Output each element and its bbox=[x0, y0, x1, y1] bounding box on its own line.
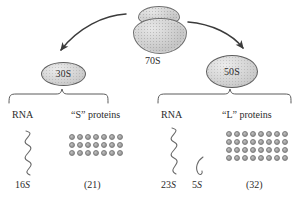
arrow-to-50s bbox=[188, 22, 243, 48]
protein-dot bbox=[274, 155, 280, 161]
protein-dot bbox=[274, 147, 280, 153]
label-70s: 70S bbox=[145, 56, 161, 66]
protein-dot bbox=[77, 134, 83, 140]
protein-dot bbox=[258, 131, 264, 137]
heading-s-proteins: “S” proteins bbox=[71, 110, 120, 120]
protein-dot bbox=[250, 139, 256, 145]
protein-dot bbox=[85, 134, 91, 140]
ribosome-large-lobe bbox=[133, 18, 187, 54]
protein-dot bbox=[93, 134, 99, 140]
label-5s: 5S bbox=[192, 180, 202, 190]
protein-dot bbox=[226, 131, 232, 137]
protein-dot bbox=[117, 134, 123, 140]
protein-dot bbox=[250, 147, 256, 153]
protein-dot bbox=[69, 134, 75, 140]
protein-dot bbox=[274, 131, 280, 137]
protein-dot bbox=[101, 134, 107, 140]
protein-dot bbox=[226, 139, 232, 145]
rna-5s-icon bbox=[197, 157, 203, 174]
protein-dot bbox=[109, 150, 115, 156]
protein-dot bbox=[266, 139, 272, 145]
protein-grid-l bbox=[226, 131, 288, 161]
protein-dot bbox=[226, 147, 232, 153]
arrow-to-30s bbox=[61, 14, 126, 50]
protein-dot bbox=[93, 142, 99, 148]
ribosome-composition-figure: 70S 30S 50S RNA “S” proteins RNA “L” pro… bbox=[0, 0, 298, 200]
protein-dot bbox=[250, 131, 256, 137]
ribosome-70s-icon bbox=[133, 6, 185, 52]
protein-dot bbox=[274, 139, 280, 145]
heading-rna-50s: RNA bbox=[161, 110, 182, 120]
protein-dot bbox=[85, 150, 91, 156]
protein-dot bbox=[242, 131, 248, 137]
label-16s: 16S bbox=[15, 180, 30, 190]
protein-dot bbox=[258, 155, 264, 161]
protein-dot bbox=[117, 150, 123, 156]
protein-dot bbox=[234, 139, 240, 145]
subunit-50s: 50S bbox=[206, 55, 258, 88]
protein-dot bbox=[77, 150, 83, 156]
heading-l-proteins: “L” proteins bbox=[222, 110, 272, 120]
heading-rna-30s: RNA bbox=[12, 110, 33, 120]
subunit-50s-label: 50S bbox=[224, 66, 240, 77]
protein-dot bbox=[101, 142, 107, 148]
protein-dot bbox=[234, 131, 240, 137]
protein-dot bbox=[258, 147, 264, 153]
label-l-protein-count: (32) bbox=[246, 180, 263, 190]
protein-dot bbox=[250, 155, 256, 161]
protein-dot bbox=[101, 150, 107, 156]
subunit-30s: 30S bbox=[41, 62, 86, 86]
protein-dot bbox=[266, 131, 272, 137]
protein-dot bbox=[226, 155, 232, 161]
protein-dot bbox=[109, 134, 115, 140]
subunit-30s-label: 30S bbox=[56, 69, 71, 79]
protein-dot bbox=[109, 142, 115, 148]
brace-30s bbox=[9, 89, 108, 103]
protein-dot bbox=[69, 142, 75, 148]
protein-dot bbox=[282, 147, 288, 153]
protein-dot bbox=[234, 147, 240, 153]
protein-dot bbox=[266, 155, 272, 161]
protein-dot bbox=[282, 131, 288, 137]
protein-dot bbox=[242, 155, 248, 161]
protein-dot bbox=[117, 142, 123, 148]
stipple-texture bbox=[134, 19, 186, 53]
protein-dot bbox=[242, 147, 248, 153]
protein-dot bbox=[242, 139, 248, 145]
protein-dot bbox=[258, 139, 264, 145]
label-23s: 23S bbox=[161, 180, 176, 190]
rna-16s-icon bbox=[25, 131, 31, 175]
protein-dot bbox=[282, 139, 288, 145]
brace-50s bbox=[158, 89, 291, 103]
rna-23s-icon bbox=[171, 128, 177, 174]
protein-dot bbox=[282, 155, 288, 161]
label-s-protein-count: (21) bbox=[84, 180, 101, 190]
protein-grid-s bbox=[69, 134, 123, 156]
protein-dot bbox=[77, 142, 83, 148]
protein-dot bbox=[93, 150, 99, 156]
protein-dot bbox=[85, 142, 91, 148]
protein-dot bbox=[234, 155, 240, 161]
protein-dot bbox=[266, 147, 272, 153]
protein-dot bbox=[69, 150, 75, 156]
